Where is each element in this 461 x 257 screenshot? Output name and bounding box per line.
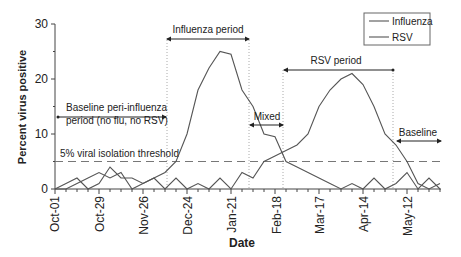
y-tick-30: 30: [35, 17, 49, 31]
rsv-period-label: RSV period: [310, 55, 361, 66]
mixed-label: Mixed: [254, 111, 281, 122]
y-axis-label: Percent virus positive: [16, 50, 28, 164]
x-tick-oct01: Oct-01: [48, 196, 62, 232]
x-axis-label: Date: [229, 236, 255, 250]
y-tick-0: 0: [41, 182, 48, 196]
rsv-line: [55, 74, 440, 190]
annotation-rsv-period: RSV period: [283, 55, 395, 73]
x-tick-nov26: Nov-26: [137, 196, 151, 235]
annotation-baseline: Baseline: [396, 127, 442, 144]
y-tick-10: 10: [35, 127, 49, 141]
x-tick-jan21: Jan-21: [225, 196, 239, 233]
x-tick-apr14: Apr-14: [357, 196, 371, 232]
x-tick-oct29: Oct-29: [93, 196, 107, 232]
annotation-baseline-peri: Baseline peri-influenza period (no flu, …: [57, 102, 168, 126]
x-axis: Oct-01 Oct-29 Nov-26 Dec-24 Jan-21 Feb-1…: [48, 189, 441, 250]
threshold-label: 5% viral isolation threshold: [60, 148, 179, 159]
legend: Influenza RSV: [364, 13, 433, 45]
y-axis: 30 20 10 0 Percent virus positive: [16, 17, 55, 196]
threshold-line: 5% viral isolation threshold: [55, 148, 441, 162]
baseline-label: Baseline: [399, 127, 438, 138]
x-tick-dec24: Dec-24: [181, 196, 195, 235]
legend-rsv: RSV: [392, 32, 413, 43]
annotation-mixed: Mixed: [249, 111, 284, 128]
x-tick-mar17: Mar-17: [313, 196, 327, 234]
y-tick-20: 20: [35, 72, 49, 86]
influenza-period-label: Influenza period: [172, 24, 243, 35]
x-tick-may12: May-12: [401, 196, 415, 236]
x-tick-feb18: Feb-18: [270, 196, 284, 234]
baseline-peri-label-1: Baseline peri-influenza: [66, 102, 168, 113]
annotation-influenza-period: Influenza period: [166, 24, 250, 42]
line-chart: 30 20 10 0 Percent virus positive Oct-01…: [0, 0, 461, 257]
legend-influenza: Influenza: [392, 16, 433, 27]
